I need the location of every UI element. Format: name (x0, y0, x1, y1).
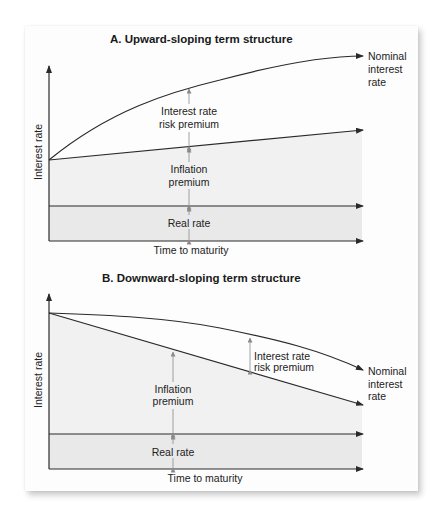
panel-a-nominal-label-3: rate (368, 76, 386, 88)
panel-b-inflation-label-1: Inflation (155, 383, 192, 395)
panel-b-nominal-label-3: rate (368, 390, 386, 402)
panel-a-risk-label-2: risk premium (159, 118, 219, 130)
panel-b-x-axis-label: Time to maturity (168, 472, 244, 484)
panel-b-title: B. Downward-sloping term structure (102, 272, 301, 284)
panel-b-y-axis-label: Interest rate (32, 352, 44, 408)
panel-b-inflation-label-2: premium (153, 395, 194, 407)
panel-b-nominal-label-1: Nominal (368, 365, 407, 377)
panel-a-y-axis-label: Interest rate (32, 124, 44, 180)
panel-a-inflation-label-2: premium (169, 176, 210, 188)
panel-a-x-axis-label: Time to maturity (154, 244, 230, 256)
panel-a: A. Upward-sloping term structure Interes… (32, 33, 407, 256)
panel-a-risk-label-1: Interest rate (161, 105, 217, 117)
panel-b: B. Downward-sloping term structure Inter… (32, 272, 407, 484)
panel-a-real-rate-label: Real rate (168, 217, 211, 229)
panel-a-nominal-label-2: interest (368, 63, 403, 75)
term-structure-diagram: A. Upward-sloping term structure Interes… (0, 0, 444, 523)
panel-a-nominal-label-1: Nominal (368, 50, 407, 62)
panel-b-risk-label-2: risk premium (254, 361, 314, 373)
panel-b-real-rate-region (49, 434, 362, 469)
panel-b-real-rate-label: Real rate (152, 446, 195, 458)
panel-b-nominal-label-2: interest (368, 378, 403, 390)
panel-a-title: A. Upward-sloping term structure (110, 33, 293, 45)
panel-a-inflation-label-1: Inflation (171, 163, 208, 175)
panel-b-inflation-region (49, 313, 362, 434)
